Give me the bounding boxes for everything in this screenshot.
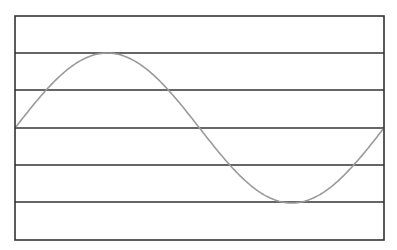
sine-wave-diagram	[0, 0, 397, 250]
